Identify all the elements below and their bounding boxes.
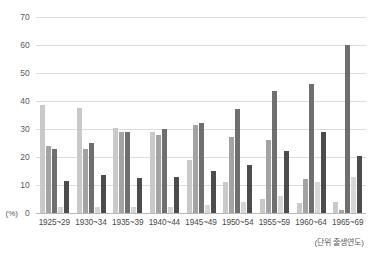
- y-axis-tick-label: 40: [20, 96, 30, 106]
- bar: [187, 160, 192, 213]
- bar: [113, 128, 118, 213]
- bar: [260, 199, 265, 213]
- bar-group: [146, 17, 183, 213]
- bar: [119, 132, 124, 213]
- bar: [321, 132, 326, 213]
- axis-caption: (단위 출생연도): [314, 236, 364, 247]
- bar: [137, 178, 142, 213]
- y-axis-tick-label: 70: [20, 12, 30, 22]
- bar: [83, 149, 88, 213]
- bar-chart: 0(%)10203040506070 1925~291930~341935~39…: [0, 0, 372, 255]
- y-axis-tick-label: 30: [20, 124, 30, 134]
- bar: [272, 91, 277, 213]
- bar: [156, 135, 161, 213]
- bar: [193, 125, 198, 213]
- bar: [339, 210, 344, 213]
- bar: [101, 175, 106, 213]
- bar: [315, 182, 320, 213]
- bar: [223, 182, 228, 213]
- bar: [89, 143, 94, 213]
- bar: [125, 132, 130, 213]
- x-axis-tick-label: 1940~44: [146, 218, 183, 227]
- x-axis-tick-label: 1950~54: [219, 218, 256, 227]
- bar: [46, 146, 51, 213]
- bar: [351, 177, 356, 213]
- bar: [345, 45, 350, 213]
- bar: [211, 171, 216, 213]
- bar: [205, 205, 210, 213]
- bar: [40, 105, 45, 213]
- bar: [64, 181, 69, 213]
- bar: [247, 165, 252, 213]
- bar-group: [293, 17, 330, 213]
- bar-group: [183, 17, 220, 213]
- bar: [95, 207, 100, 213]
- bar-group: [36, 17, 73, 213]
- bar: [77, 108, 82, 213]
- bar: [52, 149, 57, 213]
- x-axis-tick-label: 1925~29: [36, 218, 73, 227]
- y-axis-tick-label: 0: [25, 208, 30, 218]
- bar: [278, 196, 283, 213]
- x-axis-tick-label: 1935~39: [109, 218, 146, 227]
- x-axis: 1925~291930~341935~391940~441945~491950~…: [36, 218, 366, 227]
- bar-group: [109, 17, 146, 213]
- bar: [131, 207, 136, 213]
- y-axis-tick-label: 50: [20, 68, 30, 78]
- bar-group: [73, 17, 110, 213]
- bar: [199, 123, 204, 213]
- x-axis-tick-label: 1955~59: [256, 218, 293, 227]
- y-axis-unit-label: (%): [6, 209, 18, 218]
- x-axis-tick-label: 1965~69: [329, 218, 366, 227]
- bar-groups: [36, 17, 366, 213]
- bar: [162, 129, 167, 213]
- axis-baseline: [36, 213, 366, 214]
- bar: [284, 151, 289, 213]
- bar: [174, 177, 179, 213]
- x-axis-tick-label: 1960~64: [293, 218, 330, 227]
- y-axis-tick-label: 20: [20, 152, 30, 162]
- bar: [58, 207, 63, 213]
- x-axis-tick-label: 1945~49: [183, 218, 220, 227]
- y-axis: 0(%)10203040506070: [0, 17, 34, 213]
- bar: [357, 156, 362, 213]
- bar: [309, 84, 314, 213]
- bar: [168, 207, 173, 213]
- bar: [229, 137, 234, 213]
- bar: [150, 132, 155, 213]
- bar-group: [329, 17, 366, 213]
- bar-group: [256, 17, 293, 213]
- bar: [333, 202, 338, 213]
- bar: [266, 140, 271, 213]
- y-axis-tick-label: 60: [20, 40, 30, 50]
- bar: [235, 109, 240, 213]
- bar: [303, 179, 308, 213]
- bar: [241, 202, 246, 213]
- y-axis-tick-label: 10: [20, 180, 30, 190]
- bar: [297, 203, 302, 213]
- bar-group: [219, 17, 256, 213]
- x-axis-tick-label: 1930~34: [73, 218, 110, 227]
